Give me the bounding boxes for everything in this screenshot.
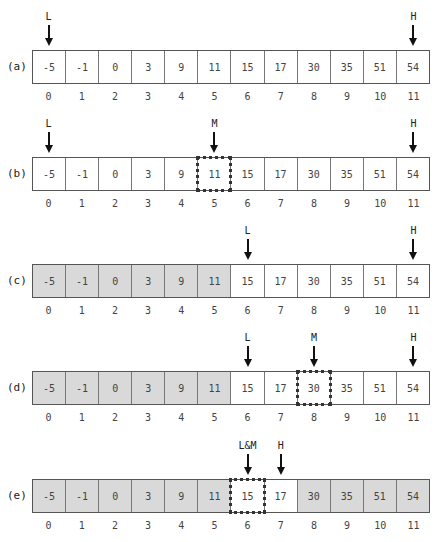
index-label: 9 — [331, 305, 364, 316]
index-label: 7 — [264, 91, 297, 102]
arrow-head-icon — [277, 467, 285, 475]
array-cell: 3 — [132, 158, 165, 190]
pointer-m: M — [194, 117, 234, 153]
index-label: 2 — [98, 198, 131, 209]
pointer-h: H — [393, 117, 433, 153]
index-label: 6 — [231, 91, 264, 102]
array-cell: 35 — [331, 51, 364, 83]
array-cell: 3 — [132, 372, 165, 404]
index-label: 11 — [397, 198, 430, 209]
index-label: 1 — [65, 198, 98, 209]
index-label: 4 — [165, 520, 198, 531]
array-cell: 51 — [364, 480, 397, 512]
index-label: 3 — [132, 198, 165, 209]
index-label: 11 — [397, 91, 430, 102]
array-cell: 54 — [397, 480, 429, 512]
index-label: 3 — [132, 412, 165, 423]
array-cell: 15 — [231, 51, 264, 83]
row-label: (e) — [7, 489, 27, 502]
arrow-head-icon — [409, 38, 417, 46]
index-label: 8 — [297, 412, 330, 423]
pointer-h: H — [393, 331, 433, 367]
array-cell-middle: 11 — [198, 158, 231, 190]
index-label: 5 — [198, 520, 231, 531]
index-label: 8 — [297, 91, 330, 102]
arrow-down-icon — [412, 132, 414, 145]
array-cell: 15 — [231, 158, 264, 190]
arrow-down-icon — [247, 346, 249, 359]
array-cell: 0 — [99, 480, 132, 512]
arrow-down-icon — [412, 25, 414, 38]
index-label: 6 — [231, 198, 264, 209]
array-cell: -5 — [33, 265, 66, 297]
index-label: 6 — [231, 412, 264, 423]
index-label: 8 — [297, 520, 330, 531]
index-label: 0 — [32, 305, 65, 316]
index-label: 4 — [165, 305, 198, 316]
array-cell: 17 — [265, 480, 298, 512]
index-label: 9 — [331, 412, 364, 423]
index-label: 6 — [231, 305, 264, 316]
pointer-label: H — [393, 10, 433, 23]
index-labels: 01234567891011 — [32, 198, 430, 209]
array-cell: -5 — [33, 480, 66, 512]
array-cell: 11 — [198, 51, 231, 83]
pointer-l: L — [29, 117, 69, 153]
array-cell: 30 — [298, 265, 331, 297]
index-label: 10 — [364, 198, 397, 209]
row-label: (d) — [7, 381, 27, 394]
array-cell: 54 — [397, 372, 429, 404]
index-label: 0 — [32, 91, 65, 102]
array-row-d: -5-103911151730355154 — [32, 371, 430, 405]
pointer-label: L — [228, 224, 268, 237]
array-cell: 0 — [99, 265, 132, 297]
arrow-head-icon — [409, 252, 417, 260]
row-label: (b) — [7, 167, 27, 180]
array-row-c: -5-103911151730355154 — [32, 264, 430, 298]
array-cell: 17 — [265, 265, 298, 297]
array-cell: 9 — [165, 265, 198, 297]
array-cell: 17 — [265, 51, 298, 83]
array-cell: 30 — [298, 51, 331, 83]
array-cell: 30 — [298, 158, 331, 190]
array-cell: 35 — [331, 158, 364, 190]
index-label: 2 — [98, 91, 131, 102]
array-cell: 11 — [198, 372, 231, 404]
array-cell: 3 — [132, 265, 165, 297]
arrow-down-icon — [48, 132, 50, 145]
array-cell: 3 — [132, 480, 165, 512]
pointer-l: L — [228, 331, 268, 367]
index-label: 2 — [98, 305, 131, 316]
array-cell: 9 — [165, 158, 198, 190]
index-label: 1 — [65, 91, 98, 102]
index-label: 2 — [98, 520, 131, 531]
pointer-l: L — [228, 224, 268, 260]
array-cell: 15 — [231, 372, 264, 404]
index-label: 4 — [165, 412, 198, 423]
index-label: 2 — [98, 412, 131, 423]
arrow-head-icon — [210, 145, 218, 153]
index-label: 7 — [264, 305, 297, 316]
pointer-label: L — [29, 117, 69, 130]
pointer-label: M — [294, 331, 334, 344]
array-cell: 30 — [298, 480, 331, 512]
row-label: (a) — [7, 60, 27, 73]
arrow-head-icon — [244, 359, 252, 367]
index-label: 10 — [364, 91, 397, 102]
array-cell: 35 — [331, 372, 364, 404]
array-cell: -5 — [33, 372, 66, 404]
pointer-h: H — [393, 10, 433, 46]
pointer-label: H — [261, 439, 301, 452]
array-cell: 3 — [132, 51, 165, 83]
arrow-head-icon — [244, 467, 252, 475]
pointer-label: H — [393, 331, 433, 344]
index-labels: 01234567891011 — [32, 412, 430, 423]
index-label: 9 — [331, 520, 364, 531]
index-label: 7 — [264, 198, 297, 209]
array-cell: 35 — [331, 265, 364, 297]
array-cell: -1 — [66, 51, 99, 83]
array-cell: 0 — [99, 158, 132, 190]
array-cell: 51 — [364, 265, 397, 297]
pointer-label: L — [29, 10, 69, 23]
index-label: 9 — [331, 198, 364, 209]
